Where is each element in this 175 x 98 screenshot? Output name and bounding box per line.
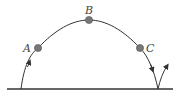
bounce-arrow-icon — [158, 66, 167, 89]
point-c-label: C — [146, 42, 155, 55]
trajectory-path — [21, 20, 158, 89]
descending-arrow-icon — [151, 64, 153, 70]
point-c-dot — [136, 44, 143, 51]
point-a-label: A — [22, 42, 31, 55]
point-b-label: B — [84, 4, 93, 17]
trajectory-diagram: A B C — [0, 0, 175, 98]
point-a-dot — [34, 44, 41, 51]
point-b-dot — [85, 16, 92, 23]
